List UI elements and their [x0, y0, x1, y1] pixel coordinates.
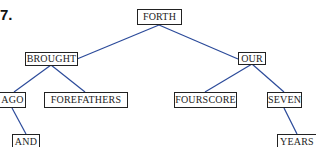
edge-our-seven	[252, 64, 284, 92]
node-seven: SEVEN	[267, 92, 302, 108]
edge-brought-ago	[14, 65, 51, 92]
edge-seven-years	[284, 108, 297, 134]
edge-forth-our	[159, 25, 238, 59]
edge-brought-forefathers	[51, 65, 85, 92]
node-years: YEARS	[277, 134, 316, 147]
node-forefathers: FOREFATHERS	[44, 92, 128, 108]
node-forth: FORTH	[137, 9, 182, 25]
edge-forth-brought	[77, 25, 159, 59]
node-and: AND	[12, 134, 40, 147]
node-ago: AGO	[0, 92, 26, 108]
node-fourscore: FOURSCORE	[174, 92, 237, 108]
edge-our-fourscore	[205, 64, 252, 92]
node-our: OUR	[238, 52, 266, 65]
edge-ago-and	[12, 108, 26, 134]
node-brought: BROUGHT	[25, 52, 78, 66]
